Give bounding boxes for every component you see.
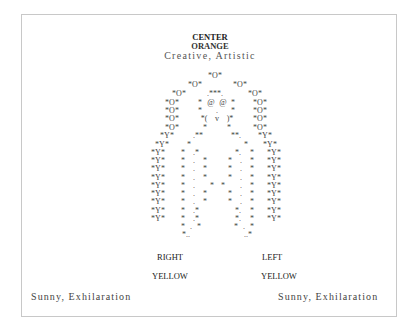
art-token: * — [203, 124, 207, 132]
art-token: *O* — [253, 115, 267, 123]
left-color-label: YELLOW — [261, 271, 297, 281]
art-token: * — [228, 174, 232, 182]
ascii-figure: *O**O**O**O*.***.*O**O**@@**O**O**.**O**… — [0, 0, 420, 333]
art-token: @ — [219, 99, 226, 107]
art-token: *Y* — [258, 132, 272, 140]
art-token: * — [197, 223, 201, 231]
right-color-label: YELLOW — [152, 271, 188, 281]
art-token: *( — [201, 115, 208, 123]
art-token: *Y* — [160, 132, 174, 140]
art-token: . — [240, 198, 242, 206]
art-token: * — [181, 165, 185, 173]
art-token: @ — [207, 99, 214, 107]
art-token: * — [234, 223, 238, 231]
art-token: *O* — [208, 72, 222, 80]
art-token: *Y* — [267, 215, 281, 223]
art-token: *Y* — [151, 215, 165, 223]
art-token: ..* — [244, 231, 252, 239]
art-token: * — [187, 141, 191, 149]
art-token: *Y* — [267, 198, 281, 206]
art-token: * — [250, 198, 254, 206]
art-token: )* — [227, 115, 234, 123]
left-traits-label: Sunny, Exhilaration — [278, 291, 378, 302]
art-token: . — [240, 165, 242, 173]
art-token: .** — [193, 132, 203, 140]
art-token: * — [228, 198, 232, 206]
art-token: . — [190, 223, 192, 231]
art-token: * — [203, 174, 207, 182]
right-side-label: RIGHT — [157, 252, 183, 262]
art-token: *O* — [165, 115, 179, 123]
art-token: * — [244, 141, 248, 149]
art-token: *O* — [248, 90, 262, 98]
art-token: * — [221, 182, 225, 190]
art-token: *Y* — [151, 198, 165, 206]
art-token: * — [228, 165, 232, 173]
art-token: .***. — [207, 90, 223, 98]
art-token: . — [193, 198, 195, 206]
left-side-label: LEFT — [262, 252, 282, 262]
art-token: **. — [231, 132, 241, 140]
art-token: *O* — [233, 81, 247, 89]
art-token: . — [193, 165, 195, 173]
art-token: * — [250, 165, 254, 173]
art-token: * — [203, 165, 207, 173]
art-token: * — [203, 198, 207, 206]
art-token: v — [215, 115, 219, 123]
art-token: * — [210, 182, 214, 190]
art-token: * — [181, 198, 185, 206]
art-token: *O* — [172, 90, 186, 98]
art-token: *.. — [182, 231, 190, 239]
art-token: *Y* — [151, 165, 165, 173]
art-token: *Y* — [267, 165, 281, 173]
right-traits-label: Sunny, Exhilaration — [31, 291, 131, 302]
art-token: *O* — [188, 81, 202, 89]
